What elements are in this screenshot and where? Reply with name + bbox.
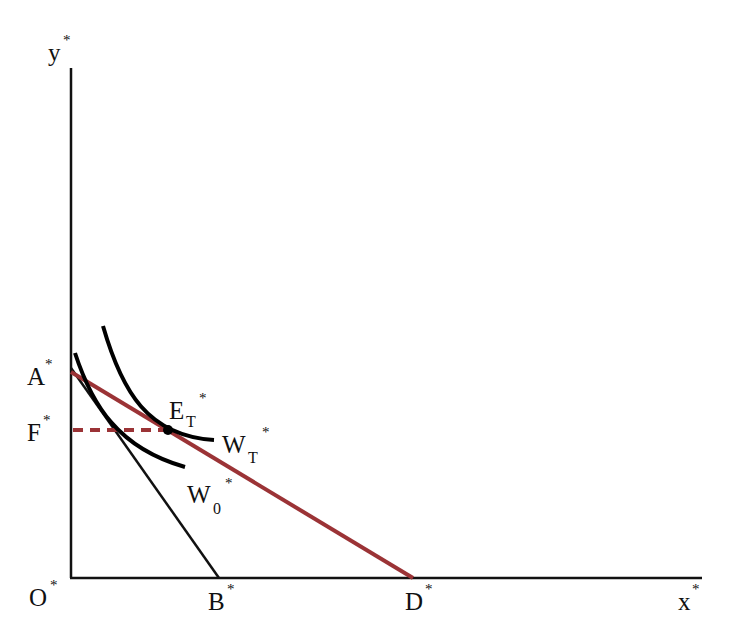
diagram-canvas: y * A * F * E T * W T * W 0 * O * B * D … <box>0 0 731 643</box>
svg-text:*: * <box>262 424 270 440</box>
svg-text:W: W <box>187 481 211 508</box>
equilibrium-point <box>163 425 173 435</box>
svg-text:x: x <box>678 588 691 615</box>
svg-text:B: B <box>208 588 225 615</box>
svg-text:T: T <box>248 449 258 466</box>
svg-text:*: * <box>692 581 700 597</box>
svg-text:*: * <box>425 581 433 597</box>
point-f-label: F * <box>27 412 51 446</box>
curve-w0-label: W 0 * <box>187 475 233 517</box>
svg-text:*: * <box>45 356 53 372</box>
y-axis-label: y * <box>48 32 71 66</box>
svg-text:*: * <box>199 390 207 406</box>
svg-text:T: T <box>186 413 196 430</box>
indifference-curve-wt <box>103 326 214 440</box>
svg-text:O: O <box>29 584 47 611</box>
point-b-label: B * <box>208 581 235 615</box>
origin-label: O * <box>29 577 58 611</box>
svg-text:*: * <box>63 32 71 48</box>
point-a-label: A * <box>27 356 53 390</box>
svg-text:A: A <box>27 363 45 390</box>
curve-wt-label: W T * <box>222 424 270 466</box>
point-d-label: D * <box>405 581 433 615</box>
svg-text:F: F <box>27 419 41 446</box>
svg-text:*: * <box>225 475 233 491</box>
svg-text:y: y <box>48 39 61 66</box>
svg-text:E: E <box>169 397 184 424</box>
svg-text:D: D <box>405 588 423 615</box>
svg-text:*: * <box>50 577 58 593</box>
trade-budget-line <box>71 372 413 578</box>
svg-text:W: W <box>222 431 246 458</box>
svg-text:0: 0 <box>213 500 221 517</box>
svg-text:*: * <box>43 412 51 428</box>
x-axis-label: x * <box>678 581 700 615</box>
point-e-label: E T * <box>169 390 207 430</box>
svg-text:*: * <box>227 581 235 597</box>
